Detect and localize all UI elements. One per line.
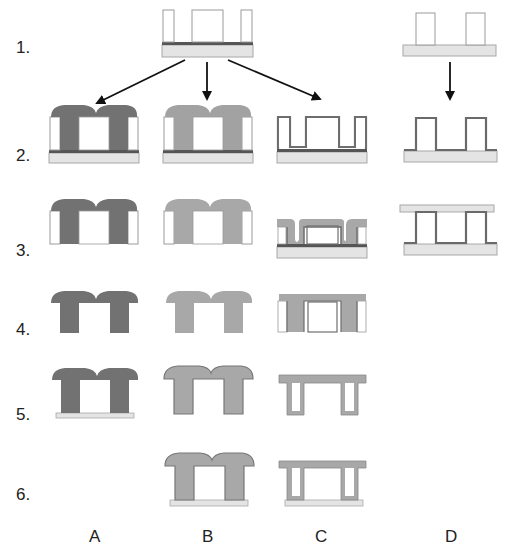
- step-2-C: [277, 117, 367, 163]
- step-2-A: [49, 105, 139, 163]
- step-2-B: [163, 105, 253, 163]
- step-6-C: [279, 461, 366, 506]
- step-3-D: [400, 205, 497, 255]
- column-label-A: A: [89, 527, 100, 547]
- row-label-5: 5.: [16, 405, 30, 425]
- process-diagram: [0, 0, 506, 558]
- step-5-B: [164, 366, 253, 414]
- column-label-B: B: [202, 527, 213, 547]
- step-2-D: [404, 118, 497, 162]
- step-4-C: [278, 294, 366, 332]
- row-label-1: 1.: [16, 38, 30, 58]
- row-label-6: 6.: [16, 485, 30, 505]
- step-3-B: [164, 199, 252, 244]
- step-3-C: [277, 219, 367, 258]
- column-label-C: C: [315, 527, 327, 547]
- arrows: [97, 60, 450, 103]
- row-label-4: 4.: [16, 320, 30, 340]
- step-5-A: [52, 368, 138, 418]
- row-label-2: 2.: [16, 146, 30, 166]
- arrow-to-A: [97, 60, 185, 103]
- step-1-D: [403, 13, 496, 56]
- arrow-to-C: [228, 60, 320, 99]
- step-5-C: [279, 375, 366, 415]
- step-4-A: [51, 291, 138, 333]
- step-1-start: [162, 10, 253, 57]
- step-6-B: [165, 453, 254, 506]
- column-label-D: D: [445, 527, 457, 547]
- step-3-A: [50, 199, 138, 244]
- row-label-3: 3.: [16, 241, 30, 261]
- step-4-B: [166, 291, 252, 333]
